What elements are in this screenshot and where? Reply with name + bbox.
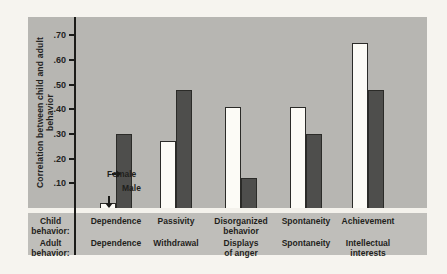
bar-female	[306, 134, 322, 208]
bar-male	[352, 43, 368, 208]
bar-female	[241, 178, 257, 208]
y-axis-line	[74, 17, 76, 255]
y-tick-label: .20	[36, 154, 66, 164]
category-label-band: Child behavior: Adult behavior: Dependen…	[28, 213, 427, 255]
adult-category-label: Intellectual interests	[330, 238, 406, 258]
y-tick-label: .40	[36, 104, 66, 114]
bar-female	[176, 90, 192, 208]
bar-chart-figure: Correlation between child and adult beha…	[28, 17, 427, 255]
page: { "figure": { "ylabel": "Correlation bet…	[0, 0, 447, 274]
y-tick-label: .50	[36, 80, 66, 90]
y-tick-label: .30	[36, 129, 66, 139]
y-tick-label: .10	[36, 178, 66, 188]
y-tick-label: .70	[36, 30, 66, 40]
bar-male	[290, 107, 306, 208]
child-category-label: Achievement	[330, 216, 406, 226]
plot-area: Correlation between child and adult beha…	[28, 17, 427, 208]
female-arrowhead-icon	[116, 170, 121, 178]
bar-male	[160, 141, 176, 208]
child-behavior-row-header: Child behavior:	[28, 216, 73, 236]
adult-behavior-row-header: Adult behavior:	[28, 238, 73, 258]
y-tick-label: .60	[36, 55, 66, 65]
male-legend-label: Male	[122, 183, 141, 193]
bar-female	[368, 90, 384, 208]
bar-male	[225, 107, 241, 208]
